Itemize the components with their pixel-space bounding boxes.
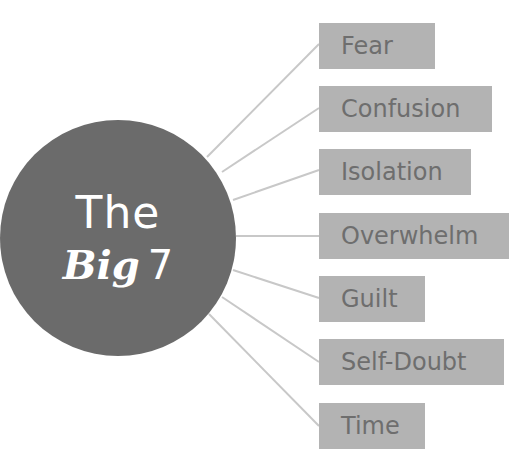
hub-label: The Big 7 [0,120,236,356]
item-box-confusion: Confusion [319,86,492,132]
connector-line-2 [222,108,319,172]
item-box-isolation: Isolation [319,149,471,195]
hub-title-line1: The [76,189,161,237]
item-box-fear: Fear [319,23,435,69]
item-box-guilt: Guilt [319,276,425,322]
item-box-overwhelm: Overwhelm [319,213,509,259]
connector-line-3 [233,170,319,200]
item-label: Guilt [319,285,398,313]
big-7-diagram: The Big 7 FearConfusionIsolationOverwhel… [0,0,532,473]
item-label: Confusion [319,95,460,123]
item-label: Fear [319,32,393,60]
item-label: Time [319,412,400,440]
item-box-time: Time [319,403,425,449]
hub-title-number: 7 [148,242,173,288]
hub-title-big: Big [63,241,140,288]
hub-title-line2: Big 7 [63,241,173,288]
item-label: Overwhelm [319,222,478,250]
connector-line-5 [233,270,319,298]
connector-line-6 [222,297,319,362]
item-box-self-doubt: Self-Doubt [319,339,504,385]
item-label: Isolation [319,158,443,186]
item-label: Self-Doubt [319,348,466,376]
